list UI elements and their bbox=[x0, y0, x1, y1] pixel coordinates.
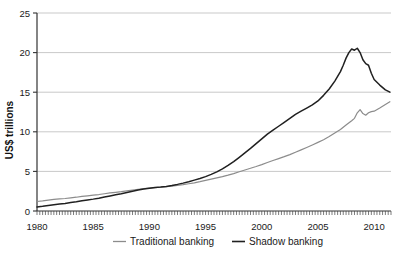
x-tick-label: 1985 bbox=[83, 221, 104, 232]
x-tick-label: 1990 bbox=[139, 221, 160, 232]
line-chart: 0510152025 1980198519901995200020052010 … bbox=[0, 0, 398, 257]
x-tick-label: 1980 bbox=[26, 221, 47, 232]
x-axis-minor-ticks bbox=[37, 211, 391, 215]
chart-container: 0510152025 1980198519901995200020052010 … bbox=[0, 0, 398, 257]
y-tick-label: 25 bbox=[19, 8, 30, 19]
x-tick-label: 2000 bbox=[251, 221, 272, 232]
x-tick-label: 1995 bbox=[195, 221, 216, 232]
y-tick-label: 0 bbox=[25, 206, 30, 217]
y-tick-label: 20 bbox=[19, 47, 30, 58]
chart-background bbox=[0, 0, 398, 257]
y-tick-label: 10 bbox=[19, 126, 30, 137]
x-tick-label: 2010 bbox=[364, 221, 385, 232]
y-tick-label: 15 bbox=[19, 87, 30, 98]
legend-label: Shadow banking bbox=[249, 236, 323, 247]
x-tick-label: 2005 bbox=[307, 221, 328, 232]
y-axis-title: US$ trillions bbox=[4, 100, 15, 159]
y-tick-label: 5 bbox=[25, 166, 30, 177]
legend-label: Traditional banking bbox=[130, 236, 214, 247]
